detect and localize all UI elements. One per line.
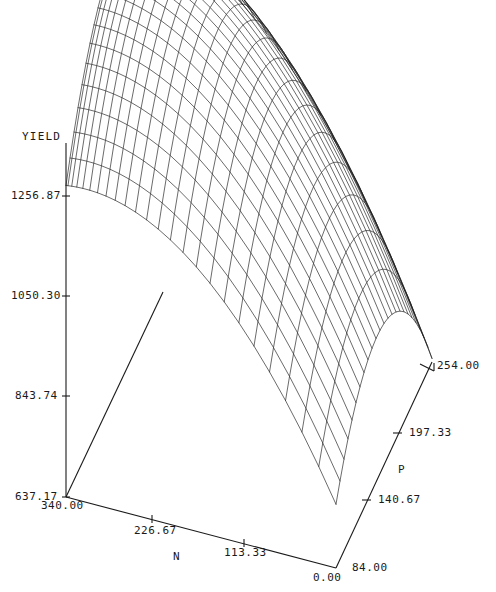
xaxis-tick-label-3: 0.00 — [313, 572, 342, 584]
surface-plot-figure: YIELD 1256.87 1050.30 843.74 637.17 N 34… — [0, 0, 496, 592]
yaxis-tick-label-2: 197.33 — [409, 427, 452, 439]
zaxis-tick-label-1: 1050.30 — [11, 290, 61, 302]
xaxis-tick-label-2: 113.33 — [224, 547, 267, 559]
zaxis-tick-label-2: 843.74 — [15, 390, 58, 402]
surface-mesh — [66, 0, 432, 504]
yaxis-title: P — [398, 464, 406, 476]
zaxis-title: YIELD — [22, 131, 61, 143]
zaxis-tick-label-0: 1256.87 — [11, 190, 61, 202]
yaxis-tick-label-0: 84.00 — [352, 562, 388, 574]
yaxis-tick-label-3: 254.00 — [437, 360, 480, 372]
xaxis-tick-label-0: 340.00 — [41, 500, 84, 512]
yaxis-tick-label-1: 140.67 — [378, 494, 421, 506]
xaxis-title: N — [173, 551, 181, 563]
xaxis-tick-label-1: 226.67 — [134, 525, 177, 537]
